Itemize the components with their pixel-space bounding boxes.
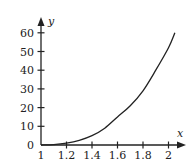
x-tick-labels: 11.21.41.61.82 <box>38 149 173 162</box>
y-tick-label: 0 <box>27 139 34 152</box>
x-axis-label: x <box>177 127 184 140</box>
y-axis-label: y <box>47 15 55 28</box>
axes <box>41 23 180 145</box>
x-tick-label: 1.2 <box>58 149 76 162</box>
y-tick-label: 60 <box>20 27 34 40</box>
x-tick-label: 1 <box>38 149 45 162</box>
y-tick-labels: 0102030405060 <box>20 27 34 152</box>
chart: 11.21.41.61.82 0102030405060 x y <box>0 0 191 166</box>
y-tick-label: 30 <box>20 83 34 96</box>
x-tick-label: 1.4 <box>83 149 101 162</box>
x-tick-label: 1.6 <box>109 149 127 162</box>
y-tick-label: 50 <box>20 46 34 59</box>
y-tick-label: 10 <box>20 120 34 133</box>
y-tick-label: 20 <box>20 102 34 115</box>
x-axis-arrow-icon <box>177 142 186 149</box>
x-tick-label: 1.8 <box>134 149 152 162</box>
y-axis-arrow-icon <box>38 17 45 26</box>
y-tick-label: 40 <box>20 64 34 77</box>
x-tick-label: 2 <box>165 149 172 162</box>
data-curve <box>41 33 175 145</box>
